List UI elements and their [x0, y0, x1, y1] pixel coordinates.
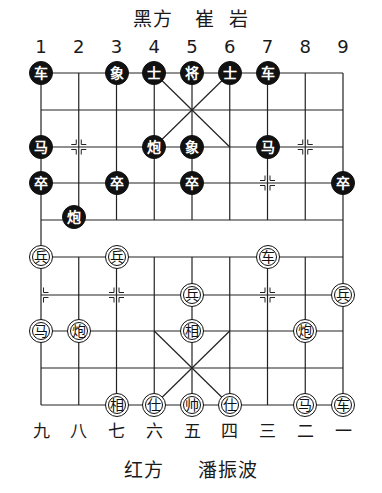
position-marker — [308, 150, 313, 155]
position-marker — [109, 298, 114, 303]
black-piece[interactable]: 象 — [105, 61, 129, 85]
position-marker — [298, 140, 303, 145]
file-label-bottom: 三 — [253, 417, 283, 442]
position-marker — [270, 298, 275, 303]
position-marker — [44, 288, 49, 293]
black-piece[interactable]: 卒 — [29, 171, 53, 195]
position-marker — [308, 140, 313, 145]
position-marker — [109, 288, 114, 293]
file-label-bottom: 二 — [290, 417, 320, 442]
red-piece[interactable]: 相 — [105, 393, 129, 417]
file-label-bottom: 六 — [139, 417, 169, 442]
position-marker — [298, 150, 303, 155]
position-marker — [270, 186, 275, 191]
red-piece[interactable]: 仕 — [218, 393, 242, 417]
red-piece[interactable]: 兵 — [331, 283, 355, 307]
black-piece[interactable]: 马 — [256, 135, 280, 159]
position-marker — [260, 176, 265, 181]
position-marker — [81, 150, 86, 155]
file-label-bottom: 七 — [102, 417, 132, 442]
black-piece[interactable]: 卒 — [180, 171, 204, 195]
red-piece[interactable]: 兵 — [105, 245, 129, 269]
red-piece[interactable]: 炮 — [67, 319, 91, 343]
red-piece[interactable]: 马 — [29, 319, 53, 343]
position-marker — [270, 176, 275, 181]
red-side-label: 红方 — [124, 455, 164, 482]
black-piece[interactable]: 象 — [180, 135, 204, 159]
black-piece[interactable]: 炮 — [62, 205, 86, 229]
black-piece[interactable]: 卒 — [331, 171, 355, 195]
file-label-bottom: 一 — [328, 417, 358, 442]
file-label-bottom: 五 — [177, 417, 207, 442]
position-marker — [260, 298, 265, 303]
red-piece[interactable]: 车 — [256, 245, 280, 269]
file-label-bottom: 四 — [215, 417, 245, 442]
position-marker — [71, 140, 76, 145]
position-marker — [44, 298, 49, 303]
red-player-name: 潘振波 — [198, 455, 258, 482]
red-piece[interactable]: 兵 — [180, 283, 204, 307]
black-piece[interactable]: 马 — [29, 135, 53, 159]
black-piece[interactable]: 将 — [180, 61, 204, 85]
black-piece[interactable]: 车 — [29, 61, 53, 85]
position-marker — [81, 140, 86, 145]
red-piece[interactable]: 帅 — [180, 393, 204, 417]
black-piece[interactable]: 士 — [218, 61, 242, 85]
black-piece[interactable]: 卒 — [105, 171, 129, 195]
position-marker — [71, 150, 76, 155]
file-label-bottom: 九 — [26, 417, 56, 442]
black-piece[interactable]: 车 — [256, 61, 280, 85]
position-marker — [260, 288, 265, 293]
red-side-footer: 红方潘振波 — [0, 455, 382, 482]
red-piece[interactable]: 相 — [180, 319, 204, 343]
position-marker — [270, 288, 275, 293]
red-piece[interactable]: 车 — [331, 393, 355, 417]
red-piece[interactable]: 兵 — [29, 245, 53, 269]
file-label-bottom: 八 — [64, 417, 94, 442]
position-marker — [260, 186, 265, 191]
position-marker — [119, 298, 124, 303]
position-marker — [119, 288, 124, 293]
